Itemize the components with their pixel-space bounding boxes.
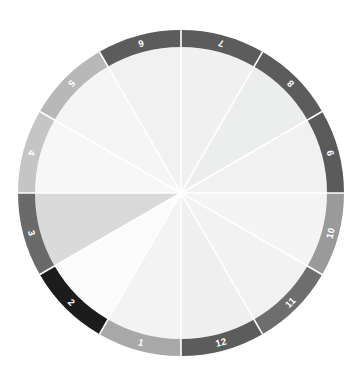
color-wheel-figure: 123456789101112 <box>0 0 357 380</box>
wheel-chart: 123456789101112 <box>0 0 357 380</box>
